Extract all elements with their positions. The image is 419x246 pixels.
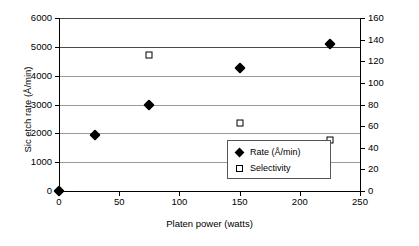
y-axis-left-line: [59, 18, 60, 192]
legend-item-selectivity: Selectivity: [233, 160, 325, 176]
y-axis-right-tick-label: 160: [368, 13, 384, 23]
y-axis-right-tick: [361, 126, 365, 127]
x-axis-tick-label: 150: [232, 197, 248, 207]
x-axis-tick-label: 0: [56, 197, 61, 207]
y-axis-right-tick: [361, 18, 365, 19]
y-axis-left-tick-label: 0: [10, 186, 52, 196]
y-axis-right-tick: [361, 148, 365, 149]
y-axis-right-tick-label: 100: [368, 78, 384, 88]
filled-diamond-icon: [233, 149, 245, 156]
x-axis-line: [59, 191, 361, 192]
x-axis-tick-label: 100: [171, 197, 187, 207]
y-axis-left-tick: [55, 105, 59, 106]
y-axis-right-tick-label: 20: [368, 164, 379, 174]
x-axis-tick-label: 50: [114, 197, 125, 207]
data-point-rate: [53, 185, 64, 196]
y-axis-left-tick: [55, 133, 59, 134]
gridline: [59, 105, 360, 106]
y-axis-right-tick-label: 0: [368, 186, 373, 196]
data-point-rate: [234, 62, 245, 73]
chart-legend: Rate (Å/min) Selectivity: [227, 140, 331, 179]
y-axis-left-tick: [55, 47, 59, 48]
gridline: [59, 133, 360, 134]
data-point-rate: [144, 99, 155, 110]
y-axis-right-tick-label: 120: [368, 56, 384, 66]
gridline: [59, 18, 360, 19]
y-axis-right-tick: [361, 61, 365, 62]
y-axis-left-tick: [55, 76, 59, 77]
data-point-selectivity: [236, 119, 243, 126]
y-axis-right-tick-label: 140: [368, 35, 384, 45]
y-axis-right-tick-label: 40: [368, 143, 379, 153]
x-axis-tick-label: 200: [292, 197, 308, 207]
data-point-rate: [324, 39, 335, 50]
y-axis-right-tick-label: 60: [368, 121, 379, 131]
y-axis-right-tick: [361, 83, 365, 84]
x-axis-tick-label: 250: [352, 197, 368, 207]
y-axis-left-tick-label: 6000: [10, 13, 52, 23]
chart-container: 0100020003000400050006000 02040608010012…: [0, 0, 419, 246]
y-axis-right-tick: [361, 40, 365, 41]
data-point-rate: [89, 129, 100, 140]
open-square-icon: [233, 165, 245, 172]
gridline: [59, 47, 360, 48]
legend-label-selectivity: Selectivity: [250, 163, 291, 173]
legend-label-rate: Rate (Å/min): [250, 147, 301, 157]
x-axis-title: Platen power (watts): [59, 218, 360, 229]
data-point-selectivity: [146, 51, 153, 58]
y-axis-left-title: Sic etch rate (Å/min): [22, 35, 33, 185]
y-axis-left-tick: [55, 18, 59, 19]
gridline: [59, 76, 360, 77]
y-axis-left-tick: [55, 162, 59, 163]
y-axis-right-tick: [361, 169, 365, 170]
y-axis-right-tick: [361, 191, 365, 192]
y-axis-right-tick-label: 80: [368, 100, 379, 110]
legend-item-rate: Rate (Å/min): [233, 144, 325, 160]
y-axis-right-tick: [361, 105, 365, 106]
